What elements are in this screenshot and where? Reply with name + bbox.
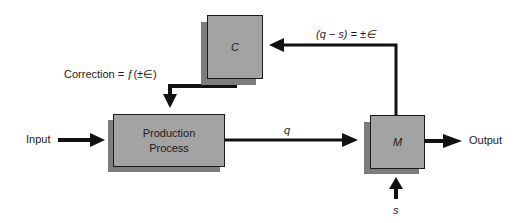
production-label-line1: Production bbox=[143, 126, 196, 141]
feedback-arrow bbox=[269, 38, 396, 115]
controller-box: C bbox=[207, 15, 263, 79]
s-arrow bbox=[389, 177, 403, 199]
output-label: Output bbox=[469, 135, 502, 146]
measurement-box: M bbox=[370, 115, 425, 169]
connector-arrows bbox=[0, 0, 526, 223]
controller-label: C bbox=[231, 40, 239, 55]
s-label: s bbox=[393, 205, 399, 216]
input-label: Input bbox=[26, 134, 50, 145]
production-process-box: Production Process bbox=[113, 114, 225, 167]
production-label-line2: Process bbox=[143, 141, 196, 156]
output-arrow bbox=[425, 134, 462, 148]
feedback-diagram: C Production Process M Input Output q s … bbox=[0, 0, 526, 223]
input-arrow bbox=[58, 133, 105, 147]
correction-label: Correction = ƒ(±∈) bbox=[64, 69, 157, 80]
measurement-label: M bbox=[393, 135, 402, 150]
q-label: q bbox=[284, 125, 290, 136]
feedback-label: (q − s) = ±∈ bbox=[316, 29, 376, 40]
q-arrow bbox=[225, 133, 358, 147]
